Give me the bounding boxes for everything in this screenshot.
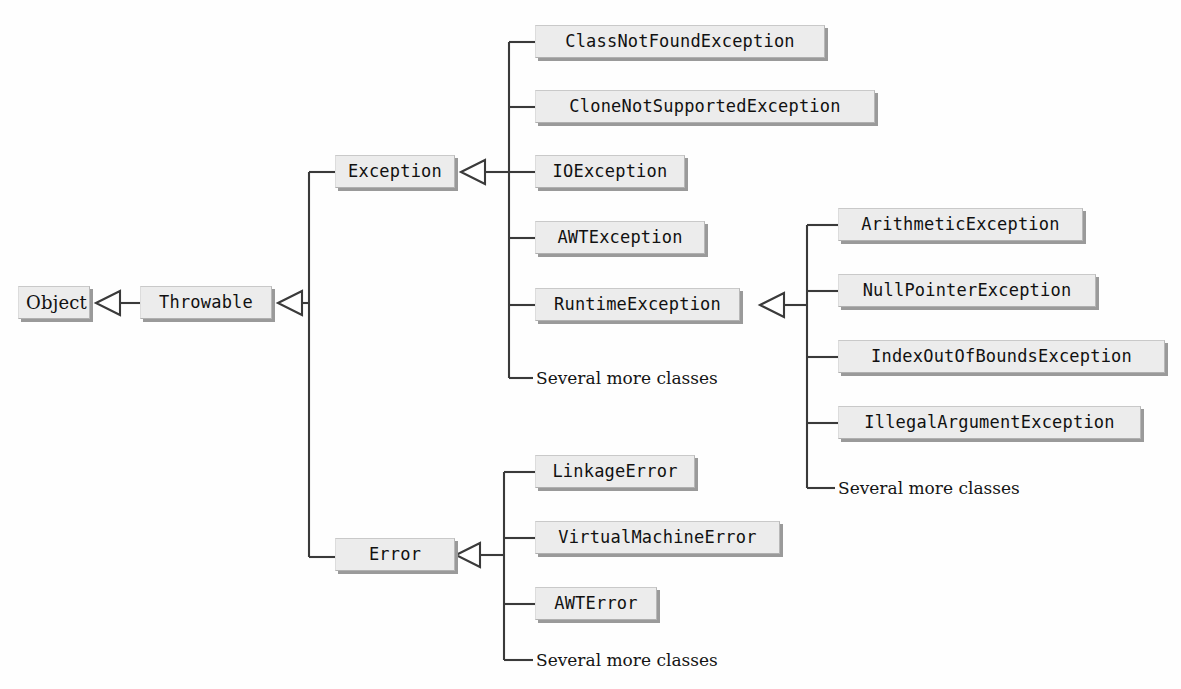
inheritance-arrow-runtimeexception [760,293,784,317]
class-box-awterror[interactable]: AWTError [535,587,657,620]
class-box-error[interactable]: Error [335,538,455,571]
class-box-exception[interactable]: Exception [335,155,455,188]
class-box-throwable[interactable]: Throwable [140,286,272,319]
class-box-arithmeticexception[interactable]: ArithmeticException [838,208,1083,241]
class-box-indexoutofboundsexception[interactable]: IndexOutOfBoundsException [838,340,1165,373]
class-box-ioexception[interactable]: IOException [535,155,685,188]
class-box-nullpointerexception[interactable]: NullPointerException [838,274,1096,307]
class-box-clonenotsupportedexception[interactable]: CloneNotSupportedException [535,90,875,123]
class-box-classnotfoundexception[interactable]: ClassNotFoundException [535,25,825,58]
class-box-awtexception[interactable]: AWTException [535,221,705,254]
label-runtime-several-more-classes: Several more classes [838,478,1020,498]
inheritance-arrow-exception [461,160,485,184]
inheritance-arrow-throwable [278,291,302,315]
label-exception-several-more-classes: Several more classes [536,368,718,388]
inheritance-arrow-error [456,543,480,567]
inheritance-arrow-object [96,291,120,315]
class-box-virtualmachineerror[interactable]: VirtualMachineError [535,521,780,554]
class-box-linkageerror[interactable]: LinkageError [535,455,695,488]
class-box-runtimeexception[interactable]: RuntimeException [535,288,740,321]
class-box-illegalargumentexception[interactable]: IllegalArgumentException [838,406,1141,439]
label-error-several-more-classes: Several more classes [536,650,718,670]
class-hierarchy-diagram: Object Throwable Exception Error ClassNo… [0,0,1181,689]
class-box-object[interactable]: Object [18,286,90,319]
